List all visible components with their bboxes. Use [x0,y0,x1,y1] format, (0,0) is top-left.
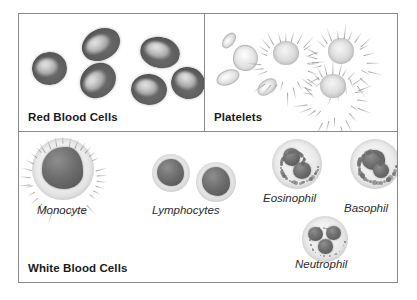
platelet-pseudopod [323,63,327,76]
platelet-activated [263,31,309,75]
monocyte-membrane-ruffle [95,186,104,190]
platelet-pseudopod [364,53,375,57]
platelet-pseudopod [367,63,380,64]
platelet-pseudopod [313,73,320,81]
eosinophil-granule [280,170,284,174]
panel-title-platelets: Platelets [214,111,262,123]
eosinophil-granule [299,182,302,185]
eosinophil-granule [309,177,313,181]
lymphocyte-nucleus [157,159,184,186]
platelet-activated [310,64,356,108]
platelet-pseudopod [357,108,371,114]
panel-title-red-blood-cells: Red Blood Cells [28,111,118,123]
monocyte-nucleus [42,147,83,189]
eosinophil-granule [317,169,319,171]
monocyte-membrane-ruffle [97,181,107,183]
basophil-granule [386,177,391,182]
neutrophil-nucleus-lobe [326,226,341,240]
neutrophil-granule [312,248,313,249]
panel-platelets: Platelets [205,14,397,132]
eosinophil-granule [301,162,305,166]
monocyte-membrane-ruffle [27,192,35,197]
basophil-granule [392,172,396,176]
basophil-granule [362,154,365,157]
platelet-pseudopod [266,31,274,45]
platelet-pseudopod [291,31,295,42]
monocyte-cell [32,138,94,200]
neutrophil-cell [302,216,348,262]
lymphocyte-nucleus [202,167,230,196]
eosinophil-granule [291,150,295,154]
basophil-granule [361,175,365,179]
platelet-pseudopod [292,87,296,99]
monocyte-membrane-ruffle [86,205,95,215]
label-basophil: Basophil [344,202,388,214]
platelet-pseudopod [334,117,335,127]
eosinophil-granule [280,161,283,164]
platelet-pseudopod [302,92,312,95]
platelet-pseudopod [344,24,347,39]
monocyte-membrane-ruffle [92,157,99,161]
label-monocyte: Monocyte [37,204,87,216]
platelet-pseudopod [297,32,304,44]
platelet-pseudopod [354,33,362,44]
neutrophil-granule [310,244,312,246]
platelet-pseudopod [325,121,329,132]
platelet-pseudopod [345,120,352,132]
label-neutrophil: Neutrophil [295,258,347,270]
platelet-pseudopod [280,82,284,91]
eosinophil-cell [272,139,322,189]
red-blood-cell [137,33,183,72]
red-blood-cell [76,21,126,67]
neutrophil-granule [311,234,313,236]
panel-title-white-blood-cells: White Blood Cells [28,262,127,274]
red-blood-cell [130,73,168,106]
red-blood-cell [167,63,205,104]
monocyte-membrane-ruffle [20,176,31,178]
monocyte-membrane-ruffle [90,194,96,199]
neutrophil-granule [312,249,314,251]
monocyte-membrane-ruffle [93,190,101,195]
label-lymphocytes: Lymphocytes [152,204,220,216]
eosinophil-granule [289,180,291,182]
platelet-pseudopod [278,32,282,42]
eosinophil-granule [285,154,287,156]
lymphocyte-cell [152,154,190,192]
monocyte-membrane-ruffle [95,167,107,172]
platelet-pseudopod [349,113,357,122]
platelet-pseudopod [357,100,369,103]
neutrophil-granule [344,241,346,243]
platelet-pseudopod [287,92,288,106]
red-blood-cell [73,56,123,106]
neutrophil-granule [323,227,325,229]
platelet-pseudopod [348,71,356,80]
panel-white-blood-cells: Monocyte Lymphocytes Eosinophil Basophil [19,132,397,282]
platelet-pseudopod [348,31,353,41]
platelet-pseudopod [342,68,347,77]
platelet-pseudopod [315,122,323,132]
neutrophil-granule [339,251,340,252]
basophil-granule [395,165,397,168]
basophil-granule [374,151,377,154]
monocyte-membrane-ruffle [22,167,32,171]
blood-cells-diagram: Red Blood Cells Platelets Monocy [18,13,398,283]
platelet-pseudopod [317,67,323,77]
neutrophil-granule [329,230,330,231]
lymphocyte-cell [196,162,236,202]
neutrophil-granule [330,237,332,239]
platelet-pseudopod [257,71,267,76]
platelet-pseudopod [326,28,332,42]
monocyte-membrane-ruffle [89,151,96,157]
platelet-pseudopod [293,104,308,107]
neutrophil-granule [313,232,314,233]
basophil-cell [350,139,397,189]
neutrophil-nucleus-lobe [318,239,334,254]
label-eosinophil: Eosinophil [263,192,316,204]
monocyte-membrane-ruffle [97,175,108,177]
eosinophil-granule [303,158,305,160]
panel-red-blood-cells: Red Blood Cells [19,14,205,132]
red-blood-cell [30,50,69,88]
platelet-resting [214,66,242,89]
basophil-granule [358,167,361,170]
neutrophil-granule [315,252,316,253]
